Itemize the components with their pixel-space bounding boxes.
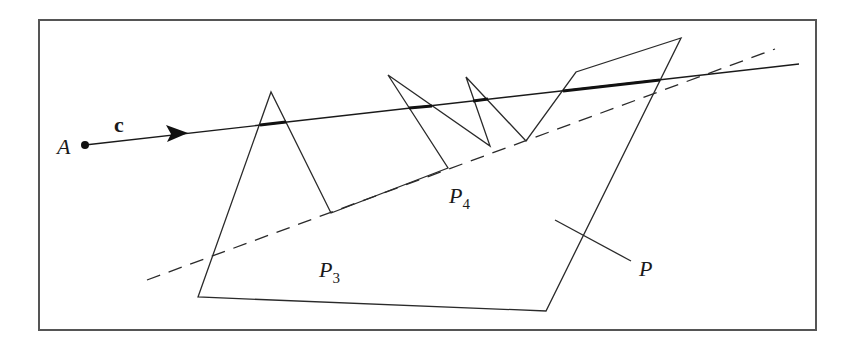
- polygon-p: [198, 38, 681, 311]
- ray-inside-segment-2: [409, 106, 432, 108]
- label-p3-main: P: [318, 257, 332, 282]
- label-polygon-p: P: [638, 256, 652, 281]
- polygon-p-leader: [555, 220, 631, 261]
- dashed-line-p3-p4: [147, 49, 775, 280]
- point-a-dot: [81, 141, 89, 149]
- label-vector-c: c: [114, 112, 124, 137]
- ray-inside-segment-3: [473, 99, 488, 101]
- figure-frame: [39, 20, 816, 330]
- arrowhead-icon: [166, 125, 188, 142]
- ray-polygon-diagram: A c P3 P4 P: [0, 0, 859, 345]
- label-a: A: [55, 134, 71, 159]
- label-p3-sub: 3: [332, 270, 340, 286]
- ray-inside-segment-1: [260, 122, 286, 125]
- label-p3: P3: [318, 257, 340, 286]
- label-p4-main: P: [448, 183, 462, 208]
- label-p4-sub: 4: [462, 196, 470, 212]
- ray-inside-segment-4: [563, 80, 660, 91]
- label-p4: P4: [448, 183, 470, 212]
- ray-from-a: [85, 64, 799, 145]
